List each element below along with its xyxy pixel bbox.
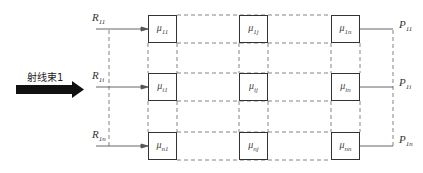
cell-mu-n1: μn1 [148,132,177,160]
output-label-p11: P11 [399,19,412,33]
input-label-r1i: R1i [92,70,104,84]
output-label-p1n: P1n [399,134,413,148]
input-label-r1n: R1n [92,129,106,143]
cell-mu-1n: μ1n [331,15,360,43]
cell-mu-i1: μi1 [148,73,177,101]
cell-mu-nn: μnn [331,132,360,160]
cell-mu-11: μ11 [148,15,177,43]
cell-mu-nj: μnj [239,132,268,160]
input-label-r11: R11 [92,12,105,26]
cell-mu-in: μin [331,73,360,101]
beam-label: 射线束1 [27,69,63,84]
output-label-p1i: P1i [399,77,411,91]
cell-mu-1j: μ1j [239,15,268,43]
output-lines [360,29,393,146]
cell-mu-ij: μij [239,73,268,101]
